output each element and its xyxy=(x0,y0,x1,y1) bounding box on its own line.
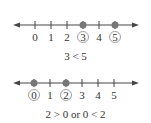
tick-label-4: 4 xyxy=(96,31,102,43)
number-line-1: 0 1 2 3 4 5 xyxy=(13,21,139,43)
tick-label-4: 4 xyxy=(95,89,101,101)
tick-label-2: 2 xyxy=(63,89,69,101)
point-5 xyxy=(112,22,119,29)
point-2 xyxy=(63,80,70,87)
point-3 xyxy=(80,22,87,29)
tick-label-3: 3 xyxy=(80,31,86,43)
tick-label-5: 5 xyxy=(111,89,117,101)
caption-1: 3 < 5 xyxy=(0,50,151,62)
tick-label-2: 2 xyxy=(64,31,70,43)
left-arrow-icon xyxy=(13,23,20,28)
tick-label-1: 1 xyxy=(47,89,53,101)
right-arrow-icon xyxy=(132,81,139,86)
tick-label-3: 3 xyxy=(79,89,85,101)
number-line-2: 0 1 2 3 4 5 xyxy=(13,79,139,101)
tick-label-1: 1 xyxy=(48,31,54,43)
tick-label-0: 0 xyxy=(32,31,38,43)
right-arrow-icon xyxy=(132,23,139,28)
left-arrow-icon xyxy=(13,81,20,86)
caption-2: 2 > 0 or 0 < 2 xyxy=(0,108,151,120)
tick-label-0: 0 xyxy=(31,89,37,101)
tick-label-5: 5 xyxy=(112,31,118,43)
point-0 xyxy=(31,80,38,87)
